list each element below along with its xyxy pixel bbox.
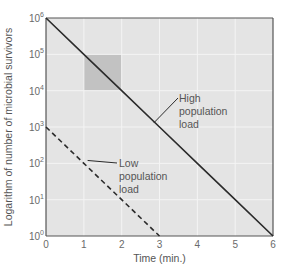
x-tick-label: 6 xyxy=(270,239,276,250)
y-axis-ticks: 100101102103104105106 xyxy=(29,11,44,242)
x-tick-label: 4 xyxy=(195,239,201,250)
x-tick-label: 0 xyxy=(43,239,49,250)
x-axis-label: Time (min.) xyxy=(133,252,186,264)
high-load-label: population xyxy=(179,105,228,117)
x-tick-label: 1 xyxy=(81,239,87,250)
x-tick-label: 5 xyxy=(232,239,238,250)
high-load-label: High xyxy=(179,92,201,104)
survivor-curve-chart: 100101102103104105106 0123456 Time (min.… xyxy=(0,0,287,275)
x-tick-label: 3 xyxy=(157,239,163,250)
y-tick-label: 100 xyxy=(29,229,44,242)
y-tick-label: 103 xyxy=(29,120,44,133)
high-load-label: load xyxy=(179,118,199,130)
low-load-label: Low xyxy=(119,157,139,169)
low-load-label: population xyxy=(119,170,168,182)
y-tick-label: 101 xyxy=(29,193,44,206)
y-tick-label: 105 xyxy=(29,47,44,60)
plot-area xyxy=(46,18,273,236)
y-tick-label: 104 xyxy=(29,84,44,97)
x-tick-label: 2 xyxy=(119,239,125,250)
low-load-label: load xyxy=(119,183,139,195)
y-tick-label: 102 xyxy=(29,156,44,169)
y-axis-label: Logarithm of number of microbial survivo… xyxy=(2,28,14,226)
x-axis-ticks: 0123456 xyxy=(43,239,276,250)
y-tick-label: 106 xyxy=(29,11,44,24)
